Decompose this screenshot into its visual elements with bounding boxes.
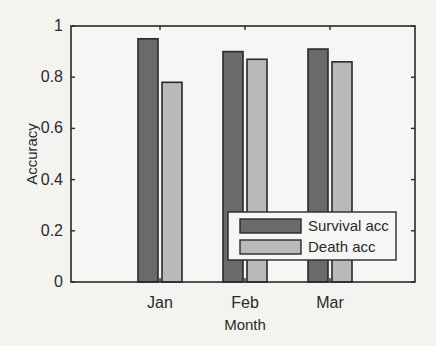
bar-jan-death-acc bbox=[162, 82, 182, 282]
legend-label: Survival acc bbox=[308, 217, 389, 234]
x-tick-label-feb: Feb bbox=[231, 294, 259, 311]
legend-swatch bbox=[240, 240, 301, 254]
x-tick-label-jan: Jan bbox=[147, 294, 173, 311]
y-tick-label: 0.8 bbox=[41, 68, 63, 85]
x-tick-label-mar: Mar bbox=[316, 294, 344, 311]
y-tick-label: 0.4 bbox=[41, 171, 63, 188]
x-axis-label: Month bbox=[224, 316, 266, 333]
bar-jan-survival-acc bbox=[138, 39, 158, 282]
y-tick-label: 0.2 bbox=[41, 222, 63, 239]
legend-label: Death acc bbox=[308, 238, 376, 255]
y-tick-label: 1 bbox=[54, 17, 63, 34]
y-tick-label: 0.6 bbox=[41, 119, 63, 136]
bar-chart: 00.20.40.60.81 JanFebMar Month Accuracy … bbox=[0, 0, 436, 346]
y-tick-label: 0 bbox=[54, 273, 63, 290]
y-axis-label: Accuracy bbox=[23, 123, 40, 185]
legend-swatch bbox=[240, 219, 301, 233]
legend: Survival accDeath acc bbox=[228, 212, 396, 260]
